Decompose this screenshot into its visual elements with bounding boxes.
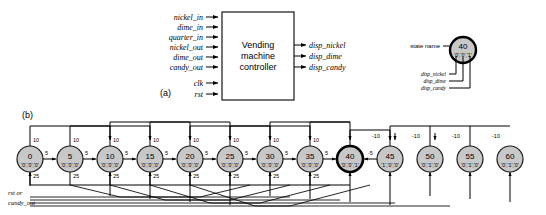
nickel-label-30: 5 xyxy=(285,150,288,156)
legend-label-disp-nickel: disp_nickel xyxy=(421,71,447,77)
legend-label-state-name: state name xyxy=(410,43,440,49)
state-name-60: 60 xyxy=(506,152,515,161)
state-node-45[interactable]: 45 '1','0','0' xyxy=(377,146,403,172)
nickel-label-10: 5 xyxy=(125,150,128,156)
state-name-35: 35 xyxy=(306,152,315,161)
state-node-55[interactable]: 55 '0','1','0' xyxy=(457,146,483,172)
quarter-edges-group xyxy=(30,185,450,206)
state-diagram: (b) xyxy=(8,110,523,206)
reset-label-line2: candy_out xyxy=(8,199,35,206)
nickel-label-20: 5 xyxy=(205,150,208,156)
quarter-label-0: 25 xyxy=(33,173,39,179)
state-outputs-15: '0','0','0' xyxy=(141,162,158,168)
state-outputs-60: '0','1','0' xyxy=(501,162,518,168)
state-node-35[interactable]: 35 '0','0','0' xyxy=(297,146,323,172)
state-name-50: 50 xyxy=(426,152,435,161)
state-outputs-55: '0','1','0' xyxy=(461,162,478,168)
quarter-edge-path-2 xyxy=(30,185,290,200)
quarter-edge-path-5 xyxy=(70,185,290,197)
dime-edge-50-to-55 xyxy=(430,126,470,146)
part-b-label: (b) xyxy=(22,110,33,120)
figure-svg: Vending machine controller nickel_in dim… xyxy=(0,0,546,215)
controller-title-line1: Vending xyxy=(242,40,275,50)
reset-label-line1: rst or xyxy=(8,189,23,196)
state-outputs-35: '0','0','0' xyxy=(301,162,318,168)
part-a-label: (a) xyxy=(160,88,171,98)
legend-state-name: 40 xyxy=(459,42,468,51)
output-label-disp-dime: disp_dime xyxy=(309,52,342,61)
state-outputs-5: '0','0','0' xyxy=(61,162,78,168)
input-label-quarter-in: quarter_in xyxy=(169,33,203,42)
input-ports: nickel_in dime_in quarter_in nickel_out … xyxy=(169,13,218,99)
state-outputs-0: '0','0','0' xyxy=(21,162,38,168)
quarter-label-25: 25 xyxy=(233,173,239,179)
input-label-clk: clk xyxy=(194,79,204,88)
dime-label-25: 10 xyxy=(233,137,239,143)
legend-label-disp-dime: disp_dime xyxy=(423,78,446,84)
dime-label-15: 10 xyxy=(153,137,159,143)
state-outputs-45: '1','0','0' xyxy=(381,162,398,168)
input-label-nickel-out: nickel_out xyxy=(170,43,204,52)
input-label-dime-in: dime_in xyxy=(177,23,203,32)
state-name-15: 15 xyxy=(146,152,155,161)
figure-root: Vending machine controller nickel_in dim… xyxy=(0,0,546,215)
dime-label-0: 10 xyxy=(33,137,39,143)
dime-edge-labels: 10 10 10 10 10 10 10 10 xyxy=(33,137,319,143)
nickel-label-15: 5 xyxy=(165,150,168,156)
reset-transition: rst or candy_out xyxy=(8,172,35,206)
dime-edges-group xyxy=(30,122,510,146)
quarter-edge-path-1 xyxy=(30,185,250,197)
input-label-nickel-in: nickel_in xyxy=(174,13,203,22)
state-outputs-25: '0','0','0' xyxy=(221,162,238,168)
dime-edge-40-to-45 xyxy=(350,130,390,146)
controller-title-line2: machine xyxy=(241,51,275,61)
state-node-25[interactable]: 25 '0','0','0' xyxy=(217,146,243,172)
quarter-label-30: 25 xyxy=(273,173,279,179)
quarter-edge-path-6 xyxy=(110,185,340,200)
return-nickel-edge-group: -5 xyxy=(364,150,377,159)
dime-label-5: 10 xyxy=(73,137,79,143)
input-label-dime-out: dime_out xyxy=(173,53,204,62)
block-diagram: Vending machine controller nickel_in dim… xyxy=(160,12,346,100)
return-nickel-label: -5 xyxy=(368,150,373,156)
return-dime-edges: -10 -10 -10 -10 xyxy=(372,133,500,140)
return-dime-label-60: -10 xyxy=(492,133,500,139)
nickel-label-35: 5 xyxy=(325,150,328,156)
state-node-10[interactable]: 10 '0','0','0' xyxy=(97,146,123,172)
state-node-60[interactable]: 60 '0','1','0' xyxy=(497,146,523,172)
state-node-5[interactable]: 5 '0','0','0' xyxy=(57,146,83,172)
dime-label-30: 10 xyxy=(273,137,279,143)
nickel-label-5: 5 xyxy=(85,150,88,156)
state-node-15[interactable]: 15 '0','0','0' xyxy=(137,146,163,172)
input-label-rst: rst xyxy=(195,90,204,99)
dime-label-10: 10 xyxy=(113,137,119,143)
state-node-50[interactable]: 50 '0','1','0' xyxy=(417,146,443,172)
quarter-label-15: 25 xyxy=(153,173,159,179)
dime-label-20: 10 xyxy=(193,137,199,143)
state-name-40: 40 xyxy=(346,152,355,161)
output-label-disp-nickel: disp_nickel xyxy=(309,41,346,50)
state-name-5: 5 xyxy=(68,152,73,161)
state-node-0[interactable]: 0 '0','0','0' xyxy=(17,146,43,172)
quarter-label-20: 25 xyxy=(193,173,199,179)
legend-label-disp-candy: disp_candy xyxy=(421,85,447,91)
controller-title-line3: controller xyxy=(239,62,276,72)
state-outputs-20: '0','0','0' xyxy=(181,162,198,168)
state-node-40[interactable]: 40 '0','0','1' xyxy=(337,146,363,172)
state-outputs-10: '0','0','0' xyxy=(101,162,118,168)
state-node-30[interactable]: 30 '0','0','0' xyxy=(257,146,283,172)
state-name-30: 30 xyxy=(266,152,275,161)
state-name-25: 25 xyxy=(226,152,235,161)
state-outputs-50: '0','1','0' xyxy=(421,162,438,168)
quarter-label-35: 25 xyxy=(313,173,319,179)
quarter-label-5: 25 xyxy=(73,173,79,179)
state-node-20[interactable]: 20 '0','0','0' xyxy=(177,146,203,172)
return-dime-label-45: -10 xyxy=(372,133,380,139)
state-name-10: 10 xyxy=(106,152,115,161)
output-label-disp-candy: disp_candy xyxy=(309,63,346,72)
state-outputs-40: '0','0','1' xyxy=(341,162,358,168)
quarter-edge-labels: 25 25 25 25 25 25 25 25 xyxy=(33,173,319,179)
input-label-candy-out: candy_out xyxy=(170,63,204,72)
nickel-label-25: 5 xyxy=(245,150,248,156)
quarter-label-10: 25 xyxy=(113,173,119,179)
